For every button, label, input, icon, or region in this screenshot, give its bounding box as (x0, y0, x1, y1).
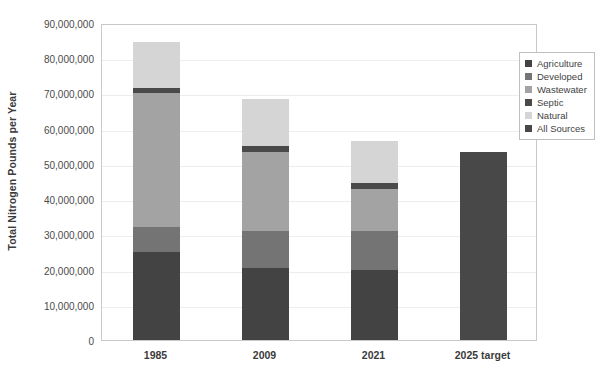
legend-item[interactable]: All Sources (525, 122, 587, 135)
y-axis-tick-label: 50,000,000 (44, 159, 94, 170)
x-axis-tick-label: 2025 target (455, 349, 510, 361)
bar-stack (133, 42, 180, 340)
y-axis-tick-label: 60,000,000 (44, 124, 94, 135)
legend-swatch-icon (525, 86, 532, 93)
legend-item[interactable]: Septic (525, 96, 587, 109)
bar-segment[interactable] (133, 42, 180, 88)
x-axis-tick-label: 2009 (253, 349, 276, 361)
legend-item[interactable]: Developed (525, 70, 587, 83)
y-axis-tick-label: 70,000,000 (44, 89, 94, 100)
bar-stack (242, 99, 289, 340)
legend-swatch-icon (525, 112, 532, 119)
legend-swatch-icon (525, 125, 532, 132)
bar-segment[interactable] (242, 99, 289, 147)
legend-item-label: Developed (537, 70, 582, 83)
bar-segment[interactable] (242, 231, 289, 268)
bar-segment[interactable] (351, 270, 398, 340)
y-axis-tick-label: 0 (88, 336, 94, 347)
legend-swatch-icon (525, 60, 532, 67)
bar-group[interactable] (460, 25, 507, 340)
x-axis-tick-labels: 1985200920212025 target (101, 345, 537, 369)
legend-item[interactable]: Natural (525, 109, 587, 122)
bar-group[interactable] (351, 25, 398, 340)
y-axis-tick-label: 40,000,000 (44, 195, 94, 206)
legend-item[interactable]: Wastewater (525, 83, 587, 96)
bar-stack (351, 141, 398, 340)
bar-segment[interactable] (351, 141, 398, 183)
bar-segment[interactable] (133, 227, 180, 252)
legend-item-label: All Sources (537, 122, 585, 135)
legend-swatch-icon (525, 73, 532, 80)
y-axis-tick-label: 20,000,000 (44, 265, 94, 276)
y-axis-tick-label: 80,000,000 (44, 54, 94, 65)
legend-item-label: Wastewater (537, 83, 587, 96)
bar-segment[interactable] (242, 152, 289, 231)
chart-legend: AgricultureDevelopedWastewaterSepticNatu… (519, 52, 595, 140)
bar-segment[interactable] (351, 189, 398, 231)
y-axis-tick-label: 30,000,000 (44, 230, 94, 241)
bar-segment[interactable] (242, 268, 289, 340)
legend-item-label: Agriculture (537, 57, 582, 70)
y-axis-tick-label: 90,000,000 (44, 19, 94, 30)
bar-segment[interactable] (133, 252, 180, 340)
bar-segment[interactable] (460, 152, 507, 340)
x-axis-tick-label: 1985 (144, 349, 167, 361)
y-axis-title-text: Total Nitrogen Pounds per Year (6, 91, 18, 250)
legend-item-label: Natural (537, 109, 568, 122)
y-axis-tick-label: 10,000,000 (44, 300, 94, 311)
bar-group[interactable] (133, 25, 180, 340)
y-axis-title: Total Nitrogen Pounds per Year (0, 0, 24, 341)
bar-group[interactable] (242, 25, 289, 340)
y-axis-tick-labels: 90,000,00080,000,00070,000,00060,000,000… (22, 0, 98, 378)
legend-swatch-icon (525, 99, 532, 106)
plot-area: AgricultureDevelopedWastewaterSepticNatu… (101, 24, 537, 341)
legend-item-label: Septic (537, 96, 563, 109)
bar-segment[interactable] (133, 93, 180, 227)
bar-stack (460, 152, 507, 340)
legend-item[interactable]: Agriculture (525, 57, 587, 70)
bar-segment[interactable] (351, 231, 398, 270)
x-axis-tick-label: 2021 (362, 349, 385, 361)
